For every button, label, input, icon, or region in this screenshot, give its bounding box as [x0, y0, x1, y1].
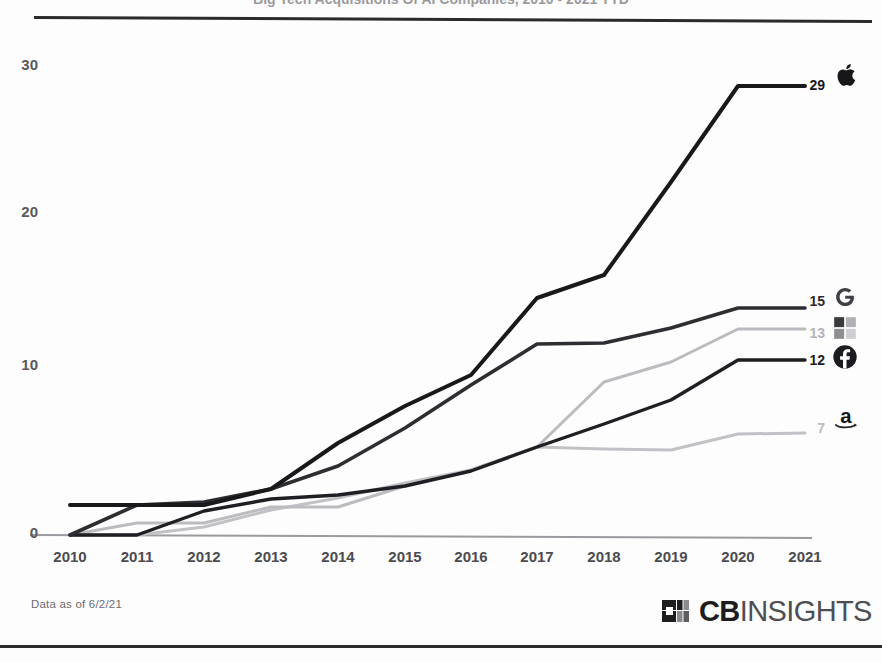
x-tick-2018: 2018 [575, 548, 633, 565]
cbinsights-wordmark: CBINSIGHTS [699, 597, 872, 626]
google-g-icon [831, 283, 861, 313]
microsoft-icon [832, 315, 862, 345]
y-tick-20: 20 [0, 203, 38, 220]
chart-page: Big Tech Acquisitions Of AI Companies, 2… [0, 0, 882, 662]
data-as-of-note: Data as of 6/2/21 [31, 598, 122, 610]
x-tick-2020: 2020 [709, 548, 767, 565]
y-tick-30: 30 [0, 56, 38, 73]
facebook-icon [831, 343, 861, 373]
series-line-facebook [70, 360, 805, 535]
x-tick-2010: 2010 [41, 548, 99, 565]
cbinsights-square-mark [662, 600, 692, 622]
x-tick-2017: 2017 [508, 548, 566, 565]
x-tick-2019: 2019 [642, 548, 700, 565]
end-value-facebook: 12 [795, 352, 825, 368]
x-tick-2013: 2013 [242, 548, 300, 565]
end-value-amazon: 7 [795, 420, 825, 436]
x-tick-2012: 2012 [175, 548, 233, 565]
end-value-google: 15 [795, 293, 825, 309]
cbinsights-logo: CBINSIGHTS [662, 596, 872, 626]
amazon-a-icon: a [831, 403, 861, 433]
svg-text:a: a [840, 405, 852, 427]
cbinsights-brand-insights: INSIGHTS [740, 595, 872, 627]
x-tick-2021: 2021 [776, 548, 834, 565]
x-tick-2014: 2014 [309, 548, 367, 565]
apple-icon [831, 60, 861, 90]
y-tick-10: 10 [0, 356, 38, 373]
series-line-apple [70, 86, 805, 505]
x-axis-line [30, 535, 812, 538]
y-tick-0: 0 [0, 524, 38, 541]
bottom-divider [0, 645, 882, 648]
x-tick-2015: 2015 [376, 548, 434, 565]
end-value-apple: 29 [795, 77, 825, 93]
x-tick-2011: 2011 [108, 548, 166, 565]
series-line-google [70, 308, 805, 535]
cbinsights-brand-cb: CB [699, 595, 740, 627]
end-value-microsoft: 13 [795, 325, 825, 341]
x-tick-2016: 2016 [442, 548, 500, 565]
